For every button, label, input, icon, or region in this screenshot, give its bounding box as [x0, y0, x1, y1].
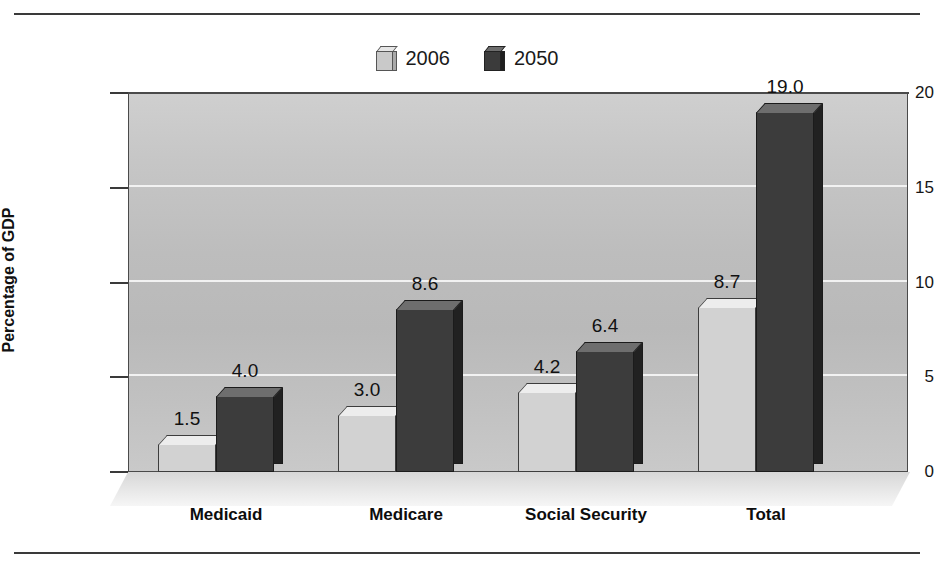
chart-plot-wrapper: 05101520 1.54.03.08.64.26.48.719.0 Medic…	[0, 0, 934, 575]
y-tick-mark-15	[110, 187, 128, 189]
bar-social-security-2006	[518, 392, 576, 472]
bar-value-label-medicaid-2006: 1.5	[152, 408, 222, 430]
bar-medicare-2050	[396, 309, 454, 472]
y-tick-mark-0	[110, 471, 128, 473]
bar-social-security-2050	[576, 351, 634, 472]
y-tick-label-5: 5	[816, 367, 934, 387]
bar-medicare-2006	[338, 415, 396, 472]
y-tick-mark-10	[110, 282, 128, 284]
bar-value-label-medicare-2006: 3.0	[332, 379, 402, 401]
y-tick-mark-5	[110, 376, 128, 378]
bar-total-2006	[698, 307, 756, 472]
bar-value-label-social-security-2050: 6.4	[570, 315, 640, 337]
bar-value-label-medicaid-2050: 4.0	[210, 360, 280, 382]
bar-total-2050	[756, 112, 814, 472]
bar-value-label-total-2050: 19.0	[750, 76, 820, 98]
bar-value-label-medicare-2050: 8.6	[390, 273, 460, 295]
y-tick-label-0: 0	[816, 462, 934, 482]
y-tick-mark-20	[110, 92, 128, 94]
category-label-medicare: Medicare	[306, 505, 506, 525]
y-tick-label-15: 15	[816, 178, 934, 198]
y-tick-label-20: 20	[816, 83, 934, 103]
bar-value-label-social-security-2006: 4.2	[512, 356, 582, 378]
chart-floor-3d	[110, 472, 910, 506]
bar-medicaid-2006	[158, 444, 216, 472]
bottom-divider-rule	[14, 552, 920, 554]
category-label-medicaid: Medicaid	[126, 505, 326, 525]
bar-medicaid-2050	[216, 396, 274, 472]
y-tick-label-10: 10	[816, 273, 934, 293]
category-label-total: Total	[666, 505, 866, 525]
category-label-social-security: Social Security	[486, 505, 686, 525]
bar-value-label-total-2006: 8.7	[692, 271, 762, 293]
